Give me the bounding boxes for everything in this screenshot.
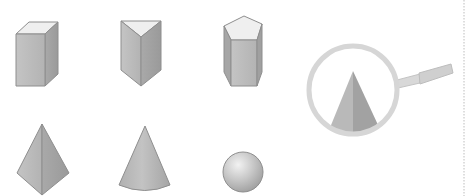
magnifying-glass bbox=[309, 46, 453, 140]
pentagonal-prism-shape bbox=[224, 16, 262, 86]
triangular-prism-shape bbox=[121, 21, 161, 86]
sphere-shape bbox=[223, 152, 263, 192]
tetrahedron-shape bbox=[17, 124, 69, 195]
cone-shape bbox=[119, 126, 170, 191]
cuboid-shape bbox=[16, 22, 58, 86]
geometric-solids-figure bbox=[0, 0, 471, 196]
magnifier-handle bbox=[397, 64, 453, 88]
